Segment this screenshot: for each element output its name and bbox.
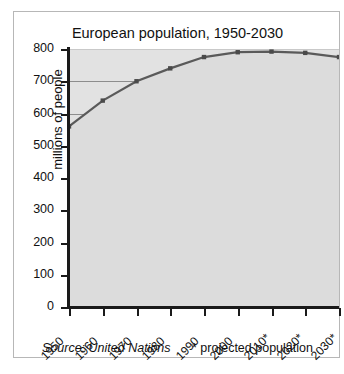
y-tick-200 <box>61 243 69 245</box>
y-tick-label-200: 200 <box>14 235 54 249</box>
data-point-2000 <box>236 50 240 54</box>
y-tick-label-700: 700 <box>14 73 54 87</box>
y-tick-800 <box>61 49 69 51</box>
x-tick-1960 <box>103 308 105 316</box>
x-tick-2010* <box>272 308 274 316</box>
data-point-2030* <box>337 55 339 59</box>
data-point-1990 <box>202 55 206 59</box>
source-note: Source: United Nations <box>42 341 171 355</box>
y-tick-500 <box>61 146 69 148</box>
data-point-2020* <box>303 51 307 55</box>
x-tick-2020* <box>305 308 307 316</box>
projection-note: * projected population <box>192 341 313 355</box>
area-fill <box>69 52 339 307</box>
data-point-1960 <box>101 98 105 102</box>
y-tick-0 <box>61 307 69 309</box>
data-point-2010* <box>269 49 273 53</box>
data-point-1970 <box>134 79 138 83</box>
y-tick-label-600: 600 <box>14 106 54 120</box>
y-tick-label-400: 400 <box>14 170 54 184</box>
series-area-line <box>69 49 339 307</box>
data-point-1980 <box>168 66 172 70</box>
plot-area <box>69 49 339 307</box>
y-tick-label-500: 500 <box>14 138 54 152</box>
y-tick-300 <box>61 210 69 212</box>
y-tick-400 <box>61 178 69 180</box>
x-axis-spine <box>67 306 339 309</box>
x-tick-1950 <box>69 308 71 316</box>
y-tick-700 <box>61 81 69 83</box>
x-tick-2000 <box>238 308 240 316</box>
x-tick-1980 <box>170 308 172 316</box>
x-tick-2030* <box>339 308 341 316</box>
x-tick-1990 <box>204 308 206 316</box>
y-tick-600 <box>61 114 69 116</box>
y-tick-label-300: 300 <box>14 202 54 216</box>
chart-figure: European population, 1950-2030 millions … <box>13 11 340 358</box>
y-tick-label-0: 0 <box>14 299 54 313</box>
y-tick-label-800: 800 <box>14 41 54 55</box>
x-tick-1970 <box>137 308 139 316</box>
y-tick-100 <box>61 275 69 277</box>
y-tick-label-100: 100 <box>14 267 54 281</box>
